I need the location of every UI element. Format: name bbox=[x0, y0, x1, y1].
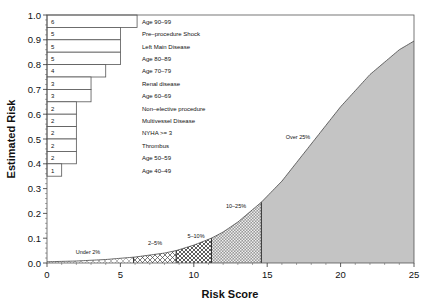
region-label: Under 2% bbox=[76, 249, 101, 255]
region-label: 2–5% bbox=[148, 240, 162, 246]
bar-factor-label: Renal disease bbox=[142, 81, 181, 87]
risk-factor-bar: 3Renal disease bbox=[47, 77, 181, 89]
region-label: 10–25% bbox=[226, 203, 246, 209]
risk-score-chart: 6Age 90–995Pre–procedure Shock5Left Main… bbox=[0, 0, 431, 307]
risk-factor-bar: 6Age 90–99 bbox=[47, 15, 172, 27]
bar-factor-label: Non–elective procedure bbox=[142, 106, 206, 112]
y-tick-label: 0.8 bbox=[28, 59, 41, 70]
bar-factor-label: Multivessel Disease bbox=[142, 118, 196, 124]
y-tick-label: 0.0 bbox=[28, 258, 41, 269]
region-1 bbox=[134, 251, 177, 263]
region-label: 5–10% bbox=[187, 233, 204, 239]
chart-svg: 6Age 90–995Pre–procedure Shock5Left Main… bbox=[0, 0, 431, 307]
risk-factor-bar: 1Age 40–49 bbox=[47, 164, 172, 176]
y-tick-label: 0.5 bbox=[28, 134, 41, 145]
region-3 bbox=[211, 202, 261, 263]
region-2 bbox=[176, 238, 211, 263]
x-tick-label: 10 bbox=[189, 269, 200, 280]
y-tick-label: 0.7 bbox=[28, 84, 41, 95]
bar-factor-label: Thrombus bbox=[142, 143, 169, 149]
region-label: Over 25% bbox=[286, 134, 311, 140]
bar-factor-label: Age 90–99 bbox=[142, 19, 172, 25]
bar-factor-label: Age 60–69 bbox=[142, 93, 172, 99]
bar-factor-label: Pre–procedure Shock bbox=[142, 31, 201, 37]
bar-factor-label: NYHA >= 3 bbox=[142, 130, 173, 136]
bar-factor-label: Age 40–49 bbox=[142, 168, 172, 174]
risk-factor-bar: 2NYHA >= 3 bbox=[47, 127, 173, 139]
bar-factor-label: Age 70–79 bbox=[142, 68, 172, 74]
risk-factor-bar: 3Age 60–69 bbox=[47, 89, 172, 101]
y-axis-label: Estimated Risk bbox=[5, 99, 17, 179]
region-4 bbox=[261, 41, 414, 263]
y-tick-label: 0.2 bbox=[28, 208, 41, 219]
risk-factor-bars: 6Age 90–995Pre–procedure Shock5Left Main… bbox=[47, 15, 206, 176]
x-tick-label: 15 bbox=[262, 269, 273, 280]
bar-factor-label: Left Main Disease bbox=[142, 44, 191, 50]
y-tick-label: 1.0 bbox=[28, 10, 41, 21]
risk-factor-bar: 5Pre–procedure Shock bbox=[47, 27, 201, 39]
x-tick-label: 25 bbox=[409, 269, 420, 280]
bar-factor-label: Age 80–89 bbox=[142, 56, 172, 62]
y-tick-label: 0.4 bbox=[28, 158, 41, 169]
risk-factor-bar: 2Age 50–59 bbox=[47, 151, 172, 163]
risk-factor-bar: 5Age 80–89 bbox=[47, 52, 172, 64]
risk-factor-bar: 2Non–elective procedure bbox=[47, 102, 206, 114]
y-tick-label: 0.9 bbox=[28, 34, 41, 45]
risk-factor-bar: 2Thrombus bbox=[47, 139, 169, 151]
risk-factor-bar: 5Left Main Disease bbox=[47, 40, 191, 52]
bar-factor-label: Age 50–59 bbox=[142, 155, 172, 161]
y-tick-label: 0.3 bbox=[28, 183, 41, 194]
x-tick-label: 20 bbox=[335, 269, 346, 280]
x-tick-label: 0 bbox=[44, 269, 49, 280]
y-tick-label: 0.6 bbox=[28, 109, 41, 120]
x-tick-label: 5 bbox=[118, 269, 123, 280]
risk-factor-bar: 2Multivessel Disease bbox=[47, 114, 196, 126]
y-tick-label: 0.1 bbox=[28, 233, 41, 244]
risk-factor-bar: 4Age 70–79 bbox=[47, 65, 172, 77]
x-axis-label: Risk Score bbox=[202, 288, 259, 300]
